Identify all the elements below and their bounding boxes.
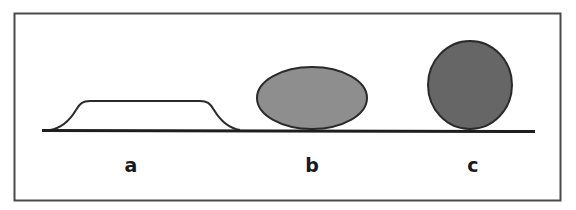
shape-a-flat-droplet — [50, 101, 240, 130]
label-a: a — [125, 154, 138, 176]
label-c: c — [467, 154, 478, 176]
surface-baseline — [42, 131, 535, 132]
label-b: b — [305, 154, 319, 176]
shape-c-circle — [428, 41, 512, 129]
diagram: a b c — [0, 0, 576, 210]
shape-b-ellipse — [257, 67, 367, 129]
